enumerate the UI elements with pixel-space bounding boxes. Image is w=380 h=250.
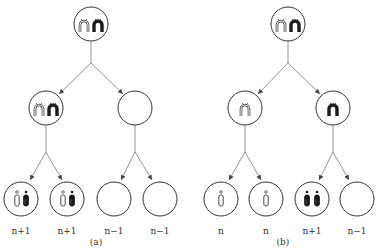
nondisjunction-diagram bbox=[0, 0, 380, 250]
panel-a-gamete-2 bbox=[50, 182, 84, 216]
caption-b: (b) bbox=[277, 237, 290, 247]
panel-a-gamete-1 bbox=[4, 182, 38, 216]
gamete-label-a2: n+1 bbox=[57, 226, 76, 236]
gamete-label-b4: n−1 bbox=[347, 226, 366, 236]
panel-b-level2-cell-left bbox=[228, 91, 262, 125]
gamete-label-a4: n−1 bbox=[150, 226, 169, 236]
panel-b-gamete-2 bbox=[249, 182, 283, 216]
panel-a-gamete-3 bbox=[97, 182, 131, 216]
panel-b-root-cell bbox=[271, 7, 305, 41]
panel-a-gamete-4 bbox=[143, 182, 177, 216]
gamete-label-b2: n bbox=[263, 226, 269, 236]
caption-a: (a) bbox=[90, 237, 102, 247]
panel-a-level2-cell-left bbox=[29, 91, 63, 125]
panel-b-level2-cell-right bbox=[316, 91, 350, 125]
panel-a bbox=[4, 7, 177, 216]
gamete-label-a3: n−1 bbox=[104, 226, 123, 236]
panel-a-root-cell bbox=[74, 7, 108, 41]
gamete-label-b1: n bbox=[218, 226, 224, 236]
panel-b bbox=[204, 7, 374, 216]
gamete-label-b3: n+1 bbox=[302, 226, 321, 236]
panel-b-gamete-3 bbox=[295, 182, 329, 216]
panel-b-gamete-4 bbox=[340, 182, 374, 216]
panel-a-level2-cell-right bbox=[118, 91, 152, 125]
panel-b-gamete-1 bbox=[204, 182, 238, 216]
gamete-label-a1: n+1 bbox=[11, 226, 30, 236]
